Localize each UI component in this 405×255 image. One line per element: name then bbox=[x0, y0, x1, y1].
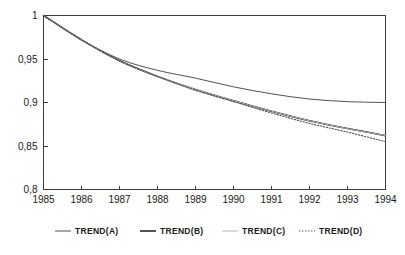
plot-frame bbox=[44, 16, 386, 190]
x-tick-label: 1987 bbox=[108, 194, 131, 205]
x-tick-label: 1985 bbox=[32, 194, 55, 205]
x-tick-label: 1989 bbox=[184, 194, 207, 205]
legend-label-trendb: TREND(B) bbox=[160, 226, 203, 236]
y-tick-label: 1 bbox=[32, 10, 38, 21]
legend-label-trendd: TREND(D) bbox=[319, 226, 362, 236]
y-tick-label: 0,9 bbox=[24, 97, 38, 108]
series-line-trendb bbox=[44, 16, 386, 136]
x-tick-label: 1991 bbox=[260, 194, 283, 205]
legend-label-trenda: TREND(A) bbox=[75, 226, 118, 236]
x-tick-label: 1986 bbox=[70, 194, 93, 205]
chart-legend: TREND(A)TREND(B)TREND(C)TREND(D) bbox=[55, 226, 362, 236]
series-line-trendd bbox=[44, 16, 386, 142]
series-line-trenda bbox=[44, 16, 386, 103]
x-tick-label: 1993 bbox=[336, 194, 359, 205]
legend-label-trendc: TREND(C) bbox=[242, 226, 285, 236]
x-tick-label: 1992 bbox=[298, 194, 321, 205]
x-tick-label: 1994 bbox=[374, 194, 397, 205]
line-chart: 0,80,850,90,951 198519861987198819891990… bbox=[0, 0, 405, 255]
x-tick-label: 1990 bbox=[222, 194, 245, 205]
y-tick-label: 0,85 bbox=[18, 141, 38, 152]
x-axis: 1985198619871988198919901991199219931994 bbox=[32, 186, 397, 205]
series-layer bbox=[44, 16, 386, 142]
chart-container: 0,80,850,90,951 198519861987198819891990… bbox=[0, 0, 405, 255]
x-tick-label: 1988 bbox=[146, 194, 169, 205]
y-tick-label: 0,95 bbox=[18, 54, 38, 65]
series-line-trendc bbox=[44, 16, 386, 136]
